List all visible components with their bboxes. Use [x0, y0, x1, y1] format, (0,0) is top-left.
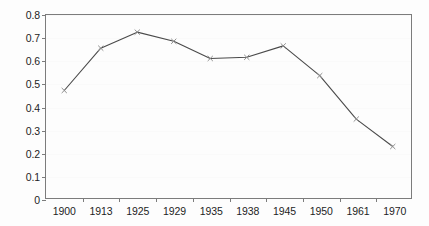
x-axis-tick [230, 198, 231, 202]
plot-frame: 00.10.20.30.40.50.60.70.8 19001913192519… [45, 14, 412, 199]
x-axis-tick-label: 1950 [310, 205, 333, 217]
data-point-marker [98, 46, 103, 51]
y-axis-tick-label: 0.5 [26, 78, 40, 90]
x-axis-tick [119, 198, 120, 202]
y-axis-tick-label: 0.3 [26, 125, 40, 137]
y-axis-tick-label: 0.8 [26, 9, 40, 21]
x-axis-tick-label: 1900 [53, 205, 76, 217]
y-axis-tick-label: 0.6 [26, 55, 40, 67]
y-axis-tick-label: 0.2 [26, 148, 40, 160]
data-point-marker [317, 73, 322, 78]
y-axis-tick-label: 0 [34, 194, 40, 206]
x-axis-tick-label: 1925 [126, 205, 149, 217]
x-axis-tick-label: 1935 [200, 205, 223, 217]
x-axis-tick [156, 198, 157, 202]
x-axis-tick-label: 1970 [383, 205, 406, 217]
x-axis-tick-label: 1961 [346, 205, 369, 217]
data-point-marker [354, 117, 359, 122]
chart-screenshot: 00.10.20.30.40.50.60.70.8 19001913192519… [0, 0, 429, 226]
y-axis-tick-label: 0.4 [26, 102, 40, 114]
x-axis-tick-label: 1938 [236, 205, 259, 217]
plot-area: 00.10.20.30.40.50.60.70.8 19001913192519… [46, 15, 411, 198]
x-axis-tick-label: 1945 [273, 205, 296, 217]
data-point-marker [390, 144, 395, 149]
y-axis-tick-label: 0.1 [26, 171, 40, 183]
x-axis-tick [193, 198, 194, 202]
series-plot [46, 15, 411, 198]
x-axis-tick [83, 198, 84, 202]
y-axis-tick-label: 0.7 [26, 32, 40, 44]
y-axis-tick [42, 200, 46, 201]
x-axis-tick [376, 198, 377, 202]
series-markers [62, 30, 396, 150]
x-axis-tick [266, 198, 267, 202]
data-point-marker [62, 88, 67, 93]
x-axis-tick [303, 198, 304, 202]
x-axis-tick [340, 198, 341, 202]
series-line [64, 32, 393, 146]
x-axis-tick-label: 1913 [90, 205, 113, 217]
x-axis-tick-label: 1929 [163, 205, 186, 217]
